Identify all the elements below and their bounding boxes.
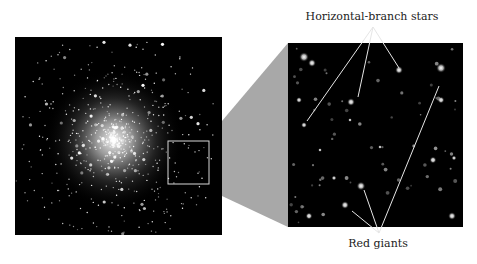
magnified-image [288,43,463,227]
figure-canvas [0,0,477,264]
horizontal-branch-label: Horizontal-branch stars [306,10,439,23]
zoom-connector [222,43,288,227]
red-giants-label: Red giants [348,237,408,250]
cluster-image [15,37,222,235]
